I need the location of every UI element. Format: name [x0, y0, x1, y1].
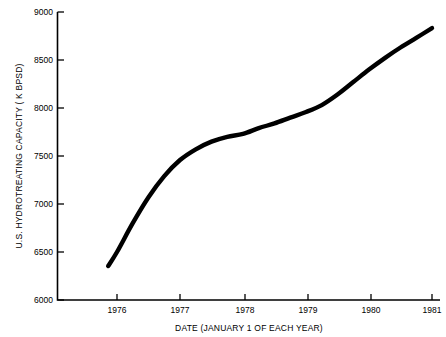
y-tick-label-9000: 9000 [34, 7, 53, 17]
x-tick-label-1981: 1981 [423, 305, 442, 315]
x-tick-label-1978: 1978 [236, 305, 255, 315]
y-axis-tick-labels: 6000 6500 7000 7500 8000 8500 9000 [34, 7, 53, 305]
x-axis-tick-labels: 1976 1977 1978 1979 1980 1981 [108, 305, 442, 315]
x-tick-label-1976: 1976 [108, 305, 127, 315]
x-axis-ticks [117, 294, 432, 300]
y-tick-label-8000: 8000 [34, 103, 53, 113]
x-axis-title: DATE (JANUARY 1 OF EACH YEAR) [175, 323, 323, 333]
y-axis-ticks [58, 12, 65, 300]
data-series-line [108, 28, 432, 266]
y-tick-label-6500: 6500 [34, 247, 53, 257]
y-axis-title: U.S. HYDROTREATING CAPACITY ( K BPSD) [14, 64, 24, 249]
y-tick-label-6000: 6000 [34, 295, 53, 305]
y-tick-label-7500: 7500 [34, 151, 53, 161]
chart-page: 6000 6500 7000 7500 8000 8500 9000 1976 … [0, 0, 446, 337]
line-chart: 6000 6500 7000 7500 8000 8500 9000 1976 … [0, 0, 446, 337]
y-tick-label-7000: 7000 [34, 199, 53, 209]
x-tick-label-1979: 1979 [299, 305, 318, 315]
y-tick-label-8500: 8500 [34, 55, 53, 65]
x-tick-label-1977: 1977 [171, 305, 190, 315]
x-tick-label-1980: 1980 [362, 305, 381, 315]
